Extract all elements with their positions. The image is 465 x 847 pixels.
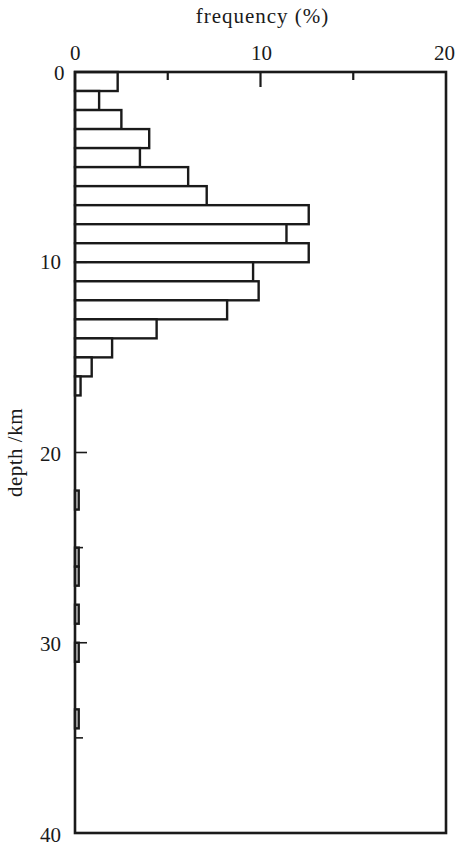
histogram-bar	[75, 224, 286, 243]
histogram-bar	[75, 281, 259, 300]
histogram-bar	[75, 338, 112, 357]
y-tick-label-10: 10	[40, 250, 61, 274]
histogram-bars	[75, 72, 309, 728]
histogram-bar	[75, 72, 118, 91]
histogram-bar	[75, 243, 309, 262]
histogram-bar	[75, 91, 99, 110]
histogram-bar	[75, 110, 121, 129]
histogram-chart: 0 10 20 0 10 20 30 40	[0, 0, 465, 847]
y-tick-label-30: 30	[40, 632, 61, 656]
histogram-bar	[75, 205, 309, 224]
x-tick-label-0: 0	[70, 41, 81, 65]
y-tick-label-0: 0	[54, 61, 65, 85]
x-tick-label-10: 10	[251, 41, 272, 65]
histogram-bar	[75, 357, 92, 376]
histogram-bar	[75, 148, 140, 167]
y-tick-label-40: 40	[40, 823, 61, 847]
histogram-bar	[75, 167, 188, 186]
x-tick-label-20: 20	[434, 41, 455, 65]
histogram-bar	[75, 319, 157, 338]
histogram-bar	[75, 129, 149, 148]
histogram-bar	[75, 262, 253, 281]
histogram-bar	[75, 300, 227, 319]
y-tick-label-20: 20	[40, 442, 61, 466]
histogram-bar	[75, 186, 207, 205]
